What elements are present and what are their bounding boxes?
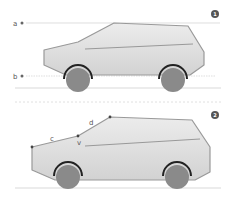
vertex-dot-v: [77, 135, 80, 138]
label-c: c: [50, 135, 54, 143]
label-d: d: [89, 119, 93, 127]
vertex-dot-front: [31, 146, 34, 149]
step-badge-2-number: 2: [213, 112, 217, 118]
label-v: v: [77, 139, 81, 147]
vertex-dot-roof: [109, 116, 112, 119]
rear-wheel-2: [163, 162, 191, 189]
label-a: a: [13, 20, 17, 28]
guide-dot-b: [21, 75, 24, 78]
panel-1: a b 1: [13, 10, 221, 92]
label-b: b: [13, 73, 18, 81]
step-badge-1-number: 1: [213, 11, 217, 17]
front-wheel-2: [54, 162, 82, 189]
guide-dot-a: [21, 22, 24, 25]
car-proportion-diagram: a b 1 c: [0, 0, 233, 197]
panel-2: c d v 2: [15, 111, 221, 189]
